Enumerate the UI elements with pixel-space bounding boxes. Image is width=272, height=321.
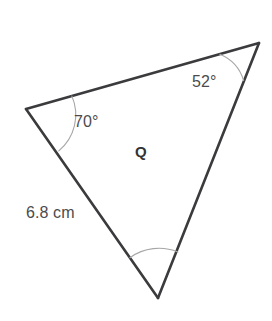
triangle-diagram: 70° 52° 6.8 cm Q <box>0 0 272 321</box>
region-label-q: Q <box>135 144 147 160</box>
angle-label-52-degrees: 52° <box>192 74 217 90</box>
triangle-interior <box>26 43 259 298</box>
triangle-figure-svg <box>0 0 272 321</box>
side-length-label: 6.8 cm <box>26 205 75 221</box>
angle-label-70-degrees: 70° <box>74 114 99 130</box>
